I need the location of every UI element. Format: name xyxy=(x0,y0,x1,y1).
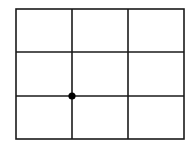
grid-point-marker xyxy=(68,92,75,99)
grid-border xyxy=(16,9,184,139)
grid-vertical-lines xyxy=(72,9,128,139)
grid-diagram xyxy=(0,0,193,148)
grid-horizontal-lines xyxy=(16,52,184,96)
